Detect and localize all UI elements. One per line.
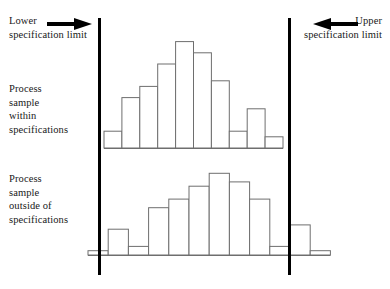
histogram-bar [229,131,247,148]
histogram-bar [247,109,265,148]
histogram-bar [229,182,249,255]
histogram-bar [211,81,229,148]
histogram-bar [250,199,270,255]
histogram-bar [140,86,158,148]
histogram-bar [189,186,209,255]
upper-specification-limit-line [288,18,291,275]
histogram-within-specifications [104,42,283,149]
histogram-outside-specifications [88,173,330,255]
histogram-bar [290,225,310,255]
histogram-bar [128,246,148,255]
histogram-bar [158,64,176,148]
histogram-bar [194,53,212,148]
histogram-bar [176,42,194,148]
histogram-bar [169,199,189,255]
histogram-bar [209,173,229,255]
histogram-bar [265,137,283,148]
histograms-canvas [0,0,390,289]
histogram-bar [270,246,290,255]
histogram-bar [122,98,140,148]
process-capability-figure: Lower specification limit Upper specific… [0,0,390,289]
histogram-bar [149,208,169,255]
histogram-bar [104,131,122,148]
histogram-bar [310,251,330,255]
histogram-bar [108,229,128,255]
lower-specification-limit-line [98,18,101,275]
